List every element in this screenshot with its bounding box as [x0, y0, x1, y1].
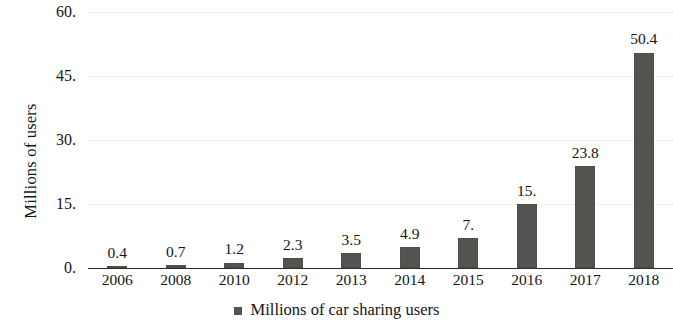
legend: Millions of car sharing users	[0, 302, 673, 319]
bar-value-label: 3.5	[342, 232, 361, 248]
bar-value-label: 23.8	[572, 145, 599, 161]
bar-value-label: 1.2	[225, 241, 244, 257]
bar-value-label: 15.	[517, 183, 536, 199]
bar-value-label: 50.4	[630, 31, 657, 47]
bar-value-label: 7.	[462, 217, 474, 233]
bar[interactable]	[341, 253, 361, 268]
bar-chart: Millions of users 0.15.30.45.60. 0.40.71…	[0, 0, 673, 329]
y-axis-tick-label: 45.	[16, 68, 76, 84]
x-axis-tick-label: 2010	[219, 272, 250, 288]
bar-slot: 2.3	[264, 12, 323, 268]
plot-area: 0.40.71.22.33.54.97.15.23.850.4	[88, 12, 673, 268]
bar-value-label: 4.9	[400, 226, 419, 242]
x-axis-tick-label: 2017	[570, 272, 601, 288]
legend-label: Millions of car sharing users	[251, 302, 440, 319]
y-axis-tick-label: 30.	[16, 132, 76, 148]
bar-value-label: 0.7	[166, 244, 185, 260]
y-axis-tick-labels: 0.15.30.45.60.	[12, 12, 76, 268]
bar[interactable]	[400, 247, 420, 268]
x-axis-tick-label: 2018	[628, 272, 659, 288]
bar-slot: 50.4	[615, 12, 673, 268]
bar-slot: 15.	[498, 12, 557, 268]
y-axis-tick-label: 15.	[16, 196, 76, 212]
x-axis-tick-labels: 2006200820102012201320142015201620172018	[88, 272, 673, 296]
x-axis-tick-label: 2016	[511, 272, 542, 288]
bar-value-label: 2.3	[283, 237, 302, 253]
bar[interactable]	[458, 238, 478, 268]
y-axis-tick-label: 0.	[16, 260, 76, 276]
x-axis-tick-label: 2013	[336, 272, 367, 288]
x-axis-tick-label: 2015	[453, 272, 484, 288]
bar-slot: 1.2	[205, 12, 264, 268]
x-axis-tick-label: 2008	[160, 272, 191, 288]
bar[interactable]	[575, 166, 595, 268]
bar[interactable]	[283, 258, 303, 268]
x-axis-tick-label: 2006	[102, 272, 133, 288]
bar-slot: 0.7	[147, 12, 206, 268]
bar-slot: 23.8	[556, 12, 615, 268]
bar-value-label: 0.4	[108, 245, 127, 261]
bar-slot: 0.4	[88, 12, 147, 268]
bars-layer: 0.40.71.22.33.54.97.15.23.850.4	[88, 12, 673, 268]
bar[interactable]	[634, 53, 654, 268]
y-axis-tick-label: 60.	[16, 4, 76, 20]
x-axis-tick-label: 2012	[277, 272, 308, 288]
legend-marker-icon	[234, 307, 242, 315]
x-axis-line	[88, 268, 673, 269]
bar-slot: 7.	[439, 12, 498, 268]
bar-slot: 3.5	[322, 12, 381, 268]
bar-slot: 4.9	[381, 12, 440, 268]
x-axis-tick-label: 2014	[394, 272, 425, 288]
bar[interactable]	[517, 204, 537, 268]
